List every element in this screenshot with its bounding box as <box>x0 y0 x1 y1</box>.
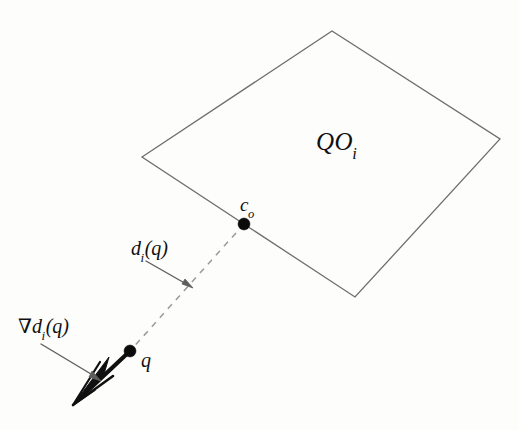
contact-point-label-subscript: o <box>248 207 254 221</box>
gradient-label-pointer <box>41 344 101 381</box>
gradient-label-argument: (q) <box>46 315 69 337</box>
diagram-svg <box>0 0 519 430</box>
distance-label: di(q) <box>131 238 168 262</box>
obstacle-label: QOi <box>316 129 358 160</box>
obstacle-label-subscript: i <box>352 144 357 163</box>
figure-canvas: QOi co di(q) ∇di(q) q <box>0 0 519 430</box>
obstacle-label-base: QO <box>316 128 353 155</box>
contact-point-label: co <box>240 195 255 218</box>
gradient-label: ∇di(q) <box>18 316 69 340</box>
obstacle-polygon <box>142 31 500 297</box>
nabla-icon: ∇ <box>18 315 32 337</box>
distance-label-subscript: i <box>140 250 144 265</box>
distance-label-pointer <box>146 261 193 288</box>
query-point-label: q <box>141 350 151 370</box>
query-point-label-base: q <box>141 349 151 371</box>
distance-label-argument: (q) <box>145 237 168 259</box>
gradient-vector-arrowhead <box>73 357 113 405</box>
query-point-marker <box>124 345 136 357</box>
gradient-label-subscript: i <box>41 328 45 343</box>
